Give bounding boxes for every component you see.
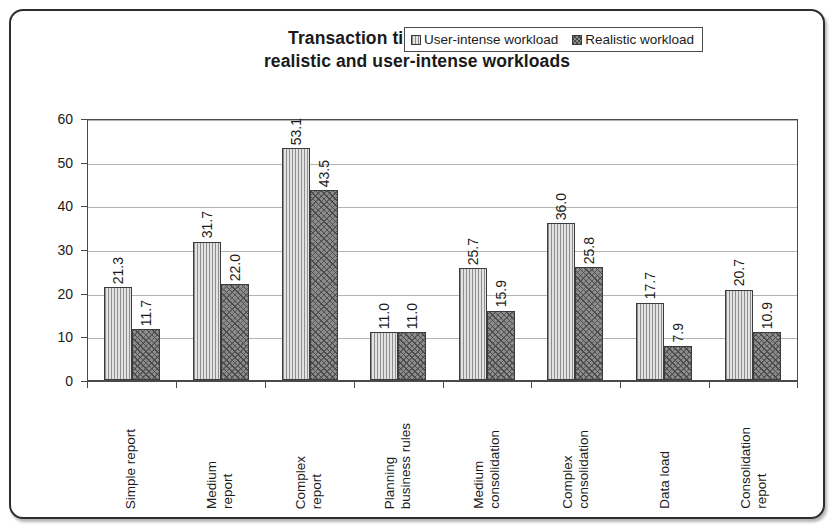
bar: 17.7 (636, 303, 664, 380)
x-axis-tick (443, 381, 444, 388)
bar: 11.7 (132, 329, 160, 380)
bar-value-label: 25.7 (465, 238, 481, 265)
x-axis-category-text: Consolidation report (738, 427, 770, 509)
bar: 7.9 (664, 346, 692, 380)
chart-figure: Transaction time (seconds) for realistic… (9, 9, 825, 519)
y-axis-tick-label: 40 (33, 198, 73, 214)
legend-swatch-icon (572, 35, 582, 45)
legend-item[interactable]: User-intense workload (411, 32, 558, 47)
bar-value-label: 21.3 (110, 257, 126, 284)
x-axis-category-text: Medium report (204, 461, 236, 509)
bar-value-label: 11.7 (138, 300, 154, 326)
y-axis-tick-mark (81, 294, 87, 295)
bar: 15.9 (487, 311, 515, 380)
x-axis-category-text: Complex consolidation (560, 430, 592, 509)
bar-group: 53.143.5 (265, 120, 354, 380)
bar-group: 20.710.9 (708, 120, 797, 380)
bar-group: 11.011.0 (354, 120, 443, 380)
bar-value-label: 17.7 (642, 272, 658, 299)
y-axis-tick-label: 0 (33, 373, 73, 389)
bar-value-label: 53.1 (288, 118, 304, 145)
bar: 53.1 (282, 148, 310, 380)
bar-group: 17.77.9 (620, 120, 709, 380)
y-axis-tick-label: 30 (33, 242, 73, 258)
x-axis-labels: Simple reportMedium reportComplex report… (87, 389, 798, 509)
x-axis-category-text: Complex report (293, 456, 325, 509)
x-axis-category-label: Simple report (87, 389, 176, 509)
bar: 31.7 (193, 242, 221, 380)
plot-area: 21.311.731.722.053.143.511.011.025.715.9… (87, 119, 798, 381)
y-axis-tick-mark (81, 163, 87, 164)
chart-legend: User-intense workloadRealistic workload (404, 27, 703, 52)
y-axis-tick-label: 20 (33, 286, 73, 302)
x-axis-tick (709, 381, 710, 388)
legend-swatch-icon (411, 35, 421, 45)
x-axis-tick (265, 381, 266, 388)
bar-group: 21.311.7 (88, 120, 177, 380)
bar-value-label: 7.9 (670, 323, 686, 342)
bar-value-label: 11.0 (404, 303, 420, 329)
bar-group: 36.025.8 (531, 120, 620, 380)
x-axis-category-text: Data load (657, 451, 673, 509)
x-axis-tick (531, 381, 532, 388)
bar-value-label: 11.0 (376, 303, 392, 329)
y-axis-tick-mark (81, 206, 87, 207)
bar-value-label: 25.8 (581, 237, 597, 264)
plot-inner: 21.311.731.722.053.143.511.011.025.715.9… (88, 120, 797, 380)
x-axis-category-label: Data load (620, 389, 709, 509)
x-axis-tick (797, 381, 798, 388)
bar-value-label: 31.7 (199, 211, 215, 238)
bar: 10.9 (753, 332, 781, 380)
x-axis-tick (176, 381, 177, 388)
x-axis-ticks (87, 381, 798, 388)
bar: 25.8 (575, 267, 603, 380)
legend-item[interactable]: Realistic workload (572, 32, 694, 47)
x-axis-category-text: Planning business rules (382, 423, 414, 509)
x-axis-category-label: Medium report (176, 389, 265, 509)
y-axis-tick-mark (81, 250, 87, 251)
bar-value-label: 36.0 (553, 193, 569, 220)
bar: 11.0 (398, 332, 426, 380)
bar-group: 25.715.9 (443, 120, 532, 380)
bar: 36.0 (547, 223, 575, 380)
x-axis-category-label: Consolidation report (709, 389, 798, 509)
bar-value-label: 15.9 (493, 280, 509, 307)
y-axis-tick-mark (81, 337, 87, 338)
x-axis-tick (620, 381, 621, 388)
x-axis-category-text: Medium consolidation (471, 430, 503, 509)
y-axis-tick-label: 60 (33, 111, 73, 127)
chart-title-line-2: realistic and user-intense workloads (11, 50, 823, 73)
x-axis-category-label: Complex report (265, 389, 354, 509)
y-axis-tick-mark (81, 119, 87, 120)
x-axis-category-label: Complex consolidation (531, 389, 620, 509)
y-axis-tick-label: 10 (33, 329, 73, 345)
legend-label: Realistic workload (585, 32, 694, 47)
bar: 20.7 (725, 290, 753, 380)
bar-groups: 21.311.731.722.053.143.511.011.025.715.9… (88, 120, 797, 380)
x-axis-category-text: Simple report (123, 429, 139, 509)
legend-label: User-intense workload (424, 32, 558, 47)
x-axis-category-label: Planning business rules (354, 389, 443, 509)
bar: 43.5 (310, 190, 338, 380)
y-axis-tick-mark (81, 381, 87, 382)
bar: 11.0 (370, 332, 398, 380)
y-axis-tick-label: 50 (33, 155, 73, 171)
bar-value-label: 22.0 (227, 254, 243, 281)
bar-value-label: 10.9 (759, 302, 775, 329)
x-axis-category-label: Medium consolidation (443, 389, 532, 509)
bar: 22.0 (221, 284, 249, 380)
bar: 21.3 (104, 287, 132, 380)
bar-group: 31.722.0 (177, 120, 266, 380)
x-axis-tick (87, 381, 88, 388)
x-axis-tick (354, 381, 355, 388)
bar-value-label: 20.7 (731, 259, 747, 286)
bar: 25.7 (459, 268, 487, 380)
bar-value-label: 43.5 (316, 160, 332, 187)
